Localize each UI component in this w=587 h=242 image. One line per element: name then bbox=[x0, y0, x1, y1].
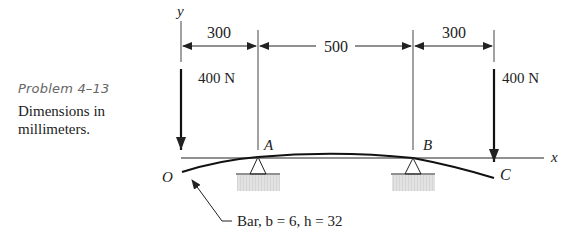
load-right-label: 400 N bbox=[502, 70, 539, 86]
beam-diagram: y 300 500 300 x 400 N 400 N bbox=[0, 0, 587, 242]
support-A bbox=[236, 157, 280, 191]
dimension-BC: 300 bbox=[415, 24, 492, 46]
dimension-OA: 300 bbox=[183, 24, 256, 46]
dimension-BC-label: 300 bbox=[442, 24, 466, 41]
y-axis-label: y bbox=[175, 3, 184, 19]
point-A-label: A bbox=[263, 137, 274, 153]
point-O-label: O bbox=[162, 169, 173, 185]
y-axis: y bbox=[175, 3, 184, 62]
dimension-AB-label: 500 bbox=[324, 38, 348, 55]
load-right: 400 N bbox=[494, 69, 539, 162]
deflected-beam-curve bbox=[182, 154, 494, 178]
bar-note: Bar, b = 6, h = 32 bbox=[237, 213, 342, 229]
x-axis-label: x bbox=[550, 149, 558, 165]
dimension-AB: 500 bbox=[260, 38, 411, 55]
load-left-label: 400 N bbox=[198, 70, 235, 86]
x-axis: x bbox=[181, 149, 558, 165]
point-C-label: C bbox=[500, 166, 511, 183]
support-B bbox=[391, 158, 435, 191]
load-left: 400 N bbox=[181, 69, 235, 150]
dimension-OA-label: 300 bbox=[207, 24, 231, 41]
point-B-label: B bbox=[423, 137, 432, 153]
